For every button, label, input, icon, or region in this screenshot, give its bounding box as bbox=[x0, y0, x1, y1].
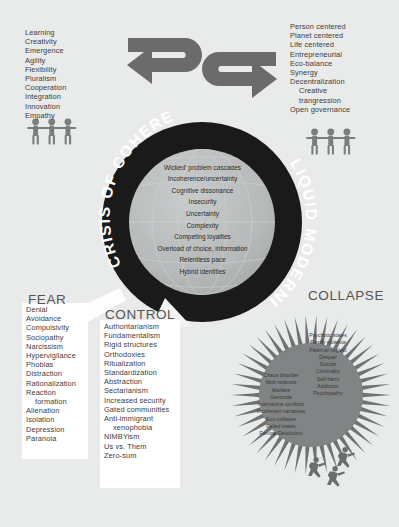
value-item: Learning bbox=[25, 28, 66, 37]
positive-adaptive-values-list: LearningCreativityEmergenceAgilityFlexib… bbox=[25, 28, 66, 120]
control-item: Abstraction bbox=[104, 377, 169, 386]
collapse-personal-item: Psychopathy bbox=[292, 390, 364, 397]
three-people-linked-icon-left bbox=[27, 118, 76, 144]
control-heading: CONTROL bbox=[105, 307, 175, 322]
fear-item: Phobias bbox=[26, 360, 76, 369]
value-item: Emergence bbox=[25, 46, 66, 55]
value-item: Agility bbox=[25, 56, 66, 65]
value-item: Decentralization bbox=[290, 77, 350, 86]
collapse-societal-item: Eco-collapse bbox=[238, 416, 324, 423]
control-item: Sectarianism bbox=[104, 386, 169, 395]
collapse-personal-item: Addiction bbox=[292, 383, 364, 390]
control-item: xenophobia bbox=[104, 423, 169, 432]
fear-item: Narcissism bbox=[26, 342, 76, 351]
value-item: Synergy bbox=[290, 68, 350, 77]
value-item: Eco-balance bbox=[290, 59, 350, 68]
collapse-societal-item: Incoherent narratives bbox=[238, 408, 324, 415]
control-item: Gated communities bbox=[104, 405, 169, 414]
value-item: Person centered bbox=[290, 22, 350, 31]
u-turn-arrow-right-icon bbox=[127, 38, 202, 84]
value-item: Life centered bbox=[290, 40, 350, 49]
value-item: Integration bbox=[25, 92, 66, 101]
collapse-personal-item: Self-harm bbox=[292, 376, 364, 383]
value-item: Pluralism bbox=[25, 74, 66, 83]
collapse-personal-item: Suicide bbox=[292, 361, 364, 368]
control-item: Authoritarianism bbox=[104, 322, 169, 331]
u-turn-arrow-left-icon bbox=[202, 52, 277, 98]
fear-item: Rationalization bbox=[26, 379, 76, 388]
value-item: Creativity bbox=[25, 37, 66, 46]
collapse-personal-item: Despair bbox=[292, 354, 364, 361]
fear-item: Avoidance bbox=[26, 314, 76, 323]
control-item: Orthodoxies bbox=[104, 350, 169, 359]
control-item: Anti-immigrant bbox=[104, 414, 169, 423]
collapse-heading: COLLAPSE bbox=[308, 288, 384, 303]
fear-item: Sociopathy bbox=[26, 333, 76, 342]
value-item: trangression bbox=[290, 96, 350, 105]
control-item: Ritualization bbox=[104, 359, 169, 368]
regenerative-values-list: Person centeredPlanet centeredLife cente… bbox=[290, 22, 350, 114]
collapse-personal-item: Paternal neglect bbox=[292, 347, 364, 354]
control-item: Standardization bbox=[104, 368, 169, 377]
collapse-societal-item: Internecine conflicts bbox=[238, 401, 324, 408]
collapse-societal-item: Failed states bbox=[238, 423, 324, 430]
control-item: Fundamentalism bbox=[104, 331, 169, 340]
control-item: Rigid structures bbox=[104, 340, 169, 349]
collapse-societal-item: Famine/Destitution bbox=[238, 430, 324, 437]
collapse-personal-item: Family violence bbox=[292, 339, 364, 346]
value-item: Planet centered bbox=[290, 31, 350, 40]
value-item: Cooperation bbox=[25, 83, 66, 92]
fear-item: Hypervigilance bbox=[26, 351, 76, 360]
fear-item: Distraction bbox=[26, 369, 76, 378]
fear-item: Denial bbox=[26, 305, 76, 314]
value-item: Open governance bbox=[290, 105, 350, 114]
control-item: Zero-sum bbox=[104, 451, 169, 460]
control-item: Us vs. Them bbox=[104, 442, 169, 451]
fear-item: Isolation bbox=[26, 415, 76, 424]
control-item: Increased security bbox=[104, 396, 169, 405]
poster-canvas: CRISIS OF COHERENCE LIQUID MODERNITY bbox=[0, 0, 399, 527]
three-people-linked-icon-right bbox=[306, 128, 355, 154]
control-item: NIMBYism bbox=[104, 432, 169, 441]
value-item: Flexibility bbox=[25, 65, 66, 74]
fear-item: Alienation bbox=[26, 406, 76, 415]
value-item: Entrepreneurial bbox=[290, 50, 350, 59]
fear-list: DenialAvoidanceCompulsivitySociopathyNar… bbox=[26, 305, 76, 443]
value-item: Empathy bbox=[25, 111, 66, 120]
collapse-personal-item: Psychotic states bbox=[292, 332, 364, 339]
fear-item: Depression bbox=[26, 425, 76, 434]
fear-item: Reaction bbox=[26, 388, 76, 397]
control-list: AuthoritarianismFundamentalismRigid stru… bbox=[104, 322, 169, 460]
fear-item: formation bbox=[26, 397, 76, 406]
value-item: Innovation bbox=[25, 102, 66, 111]
value-item: Creative bbox=[290, 86, 350, 95]
fear-item: Compulsivity bbox=[26, 323, 76, 332]
collapse-personal-item: Criminality bbox=[292, 368, 364, 375]
fear-item: Paranoia bbox=[26, 434, 76, 443]
collapse-personal-list: Psychotic statesFamily violencePaternal … bbox=[292, 332, 364, 398]
